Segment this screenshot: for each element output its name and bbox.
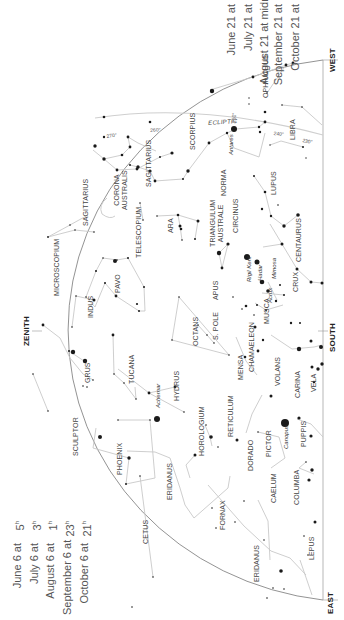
label-horologium: HOROLOGIUM xyxy=(198,406,206,456)
antares-star xyxy=(231,126,237,132)
time-date: September 21 at xyxy=(271,4,288,100)
label-antares: Antares xyxy=(228,134,234,155)
time-hour: 5 xyxy=(14,524,26,530)
label-phoenix: PHOENIX xyxy=(116,443,124,475)
label-indus: INDUS xyxy=(87,296,95,318)
time-hour: 3 xyxy=(30,524,42,530)
label-corona-australis: CORONA AUSTRALIS xyxy=(113,170,129,210)
time-date: July 21 at xyxy=(241,4,258,100)
label-lepus: LEPUS xyxy=(308,537,316,560)
label-hadar: Hadar xyxy=(257,265,263,281)
time-date: July 6 at xyxy=(27,543,44,615)
label-reticulum: RETICULUM xyxy=(227,395,235,437)
label-circinus: CIRCINUS xyxy=(232,198,240,233)
label-caelum: CAELUM xyxy=(270,473,278,503)
label-triangulum-australe: TRIANGULUM AUSTRALE xyxy=(209,200,225,247)
label-norma: NORMA xyxy=(220,169,228,196)
label-achernar: Achernar xyxy=(155,384,161,408)
label-mimosa: Mimosa xyxy=(271,258,277,279)
direction-west: WEST xyxy=(328,48,337,72)
label-eridanus-b: ERIDANUS xyxy=(253,545,261,582)
direction-east: EAST xyxy=(326,592,335,614)
time-date: October 21 at xyxy=(288,4,305,100)
times-legend-left: June 6 at5h July 6 at3h August 6 at1h Se… xyxy=(10,521,93,615)
label-chamaeleon: CHAMAELEON xyxy=(248,322,256,372)
label-puppis: PUPPIS xyxy=(300,421,308,447)
label-fornax: FORNAX xyxy=(219,500,227,530)
label-hydrus: HYDRUS xyxy=(173,371,181,401)
label-grus: GRUS xyxy=(84,362,92,383)
label-sagittarius-a: SAGITTARIUS xyxy=(145,140,153,187)
label-tucana: TUCANA xyxy=(128,355,136,384)
label-mensa: MENSA xyxy=(237,355,245,380)
label-carina: CARINA xyxy=(294,371,302,398)
direction-zenith: ZENITH xyxy=(22,316,31,346)
label-lupus: LUPUS xyxy=(270,171,278,195)
ecliptic-degree: 260° xyxy=(150,126,161,133)
label-centaurus: CENTAURUS xyxy=(295,218,303,262)
time-hour: 23 xyxy=(64,524,76,536)
label-vela: VELA xyxy=(310,374,318,392)
label-scorpius: SCORPIUS xyxy=(189,113,197,150)
label-rigil-kent: Rigil Kent xyxy=(246,256,252,282)
achernar-star xyxy=(154,416,160,422)
label-sagittarius-b: SAGITTARIUS xyxy=(82,179,90,226)
label-ara: ARA xyxy=(167,218,175,233)
label-columba: COLUMBA xyxy=(293,470,301,505)
time-date: June 21 at xyxy=(224,4,241,100)
label-cetus: CETUS xyxy=(142,520,150,544)
label-apus: APUS xyxy=(212,281,220,300)
time-date: June 6 at xyxy=(10,543,27,615)
label-acrux: Acrux xyxy=(267,288,273,303)
label-libra: LIBRA xyxy=(289,119,297,140)
label-pictor: PICTOR xyxy=(265,430,273,457)
label-s-pole: S. POLE xyxy=(212,312,220,340)
constellation-lines xyxy=(33,63,323,595)
time-hour: 1 xyxy=(47,524,59,530)
label-dorado: DORADO xyxy=(247,440,255,471)
label-canopus: Canopus xyxy=(283,425,289,449)
label-telescopium: TELESCOPIUM xyxy=(135,207,143,258)
time-date: October 6 at xyxy=(77,543,94,615)
time-date: September 6 at xyxy=(60,543,77,615)
label-octans: OCTANS xyxy=(192,317,200,346)
time-date: August 6 at xyxy=(43,543,60,615)
label-crux: CRUX xyxy=(292,272,300,292)
label-ophiuchus: OPHIUCHUS xyxy=(262,55,270,98)
direction-south: SOUTH xyxy=(328,323,337,352)
label-pavo: PAVO xyxy=(114,274,122,293)
label-microscopium: MICROSCOPIUM xyxy=(53,239,61,296)
ecliptic-degree: 240° xyxy=(273,130,284,137)
label-volans: VOLANS xyxy=(274,357,282,386)
time-hour: 21 xyxy=(80,524,92,536)
label-sculptor: SCULPTOR xyxy=(72,417,80,456)
label-eridanus-a: ERIDANUS xyxy=(166,463,174,500)
ecliptic-degree: 250° xyxy=(231,113,237,123)
